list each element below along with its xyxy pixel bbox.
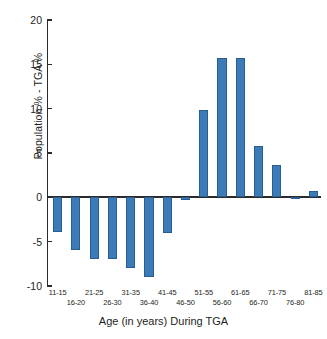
y-axis-tick-label: 15 (30, 58, 42, 70)
bar (236, 58, 245, 197)
y-axis-tick: 5 (47, 152, 52, 153)
y-axis-tick-label: 5 (36, 147, 42, 159)
y-axis-tick-mark (47, 241, 52, 242)
x-axis-tick-label: 76-80 (286, 298, 304, 307)
x-axis-tick-label: 46-50 (176, 298, 194, 307)
bar (144, 197, 153, 277)
bar (53, 197, 62, 232)
bar (108, 197, 117, 258)
x-axis-tick-label: 61-65 (231, 288, 249, 297)
bar (217, 58, 226, 197)
y-axis-tick: 20 (47, 19, 52, 20)
x-axis-tick-labels: 11-1516-2021-2526-3031-3536-4041-4546-50… (47, 288, 327, 314)
y-axis-tick-label: -5 (33, 236, 42, 248)
bar (163, 197, 172, 232)
x-axis-tick-label: 11-15 (49, 288, 67, 297)
bar-chart-figure: Population % - TGA % 20151050-5-10 11-15… (0, 0, 327, 339)
bar (254, 146, 263, 197)
y-axis-tick-label: 10 (30, 103, 42, 115)
x-axis-tick-label: 71-75 (268, 288, 286, 297)
y-axis-tick-mark (47, 108, 52, 109)
x-axis-tick-label: 81-85 (304, 288, 322, 297)
x-axis-tick-label: 36-40 (140, 298, 158, 307)
y-axis-tick: 15 (47, 64, 52, 65)
x-axis-tick-label: 21-25 (85, 288, 103, 297)
y-axis-tick-mark (47, 152, 52, 153)
y-axis-tick-mark (47, 285, 52, 286)
bar (309, 191, 318, 197)
bar (90, 197, 99, 258)
y-axis-tick-label: -10 (27, 280, 42, 292)
y-axis-tick: -5 (47, 241, 52, 242)
x-axis-tick-label: 26-30 (103, 298, 121, 307)
x-axis-tick-label: 16-20 (67, 298, 85, 307)
y-axis-tick-label: 0 (36, 191, 42, 203)
bar (291, 197, 300, 199)
x-axis-tick-label: 51-55 (195, 288, 213, 297)
bar (126, 197, 135, 268)
x-axis-title: Age (in years) During TGA (0, 315, 327, 327)
plot-area: 20151050-5-10 (47, 20, 321, 286)
bar (71, 197, 80, 249)
bar (272, 165, 281, 198)
y-axis-tick-mark (47, 19, 52, 20)
y-axis-tick-mark (47, 64, 52, 65)
bar (199, 110, 208, 198)
x-axis-tick-label: 66-70 (249, 298, 267, 307)
x-axis-tick-label: 41-45 (158, 288, 176, 297)
y-axis-tick: -10 (47, 285, 52, 286)
x-axis-tick-label: 56-60 (213, 298, 231, 307)
bar (181, 197, 190, 200)
y-axis-tick-label: 20 (30, 14, 42, 26)
x-axis-tick-label: 31-35 (121, 288, 139, 297)
y-axis-tick: 10 (47, 108, 52, 109)
